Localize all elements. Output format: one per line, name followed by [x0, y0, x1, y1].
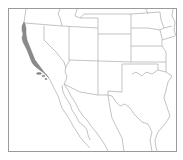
channel-island-3: [45, 78, 47, 79]
channel-island-1: [36, 73, 41, 75]
channel-island-2: [42, 75, 45, 77]
range-map: [0, 0, 183, 160]
map-canvas: [0, 0, 183, 160]
